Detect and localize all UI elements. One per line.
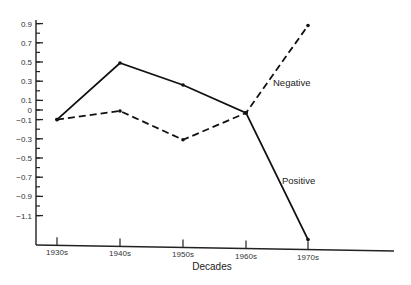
data-point (244, 111, 248, 115)
series-group (55, 24, 310, 242)
y-tick-label: 0.3 (21, 77, 33, 86)
y-tick-label: 0 (28, 106, 33, 115)
y-tick-label: −0.5 (16, 154, 32, 163)
y-tick-label: 0.7 (21, 39, 33, 48)
positive-series-label: Positive (282, 175, 315, 186)
x-axis-line (36, 245, 394, 251)
y-tick-label: 0.9 (21, 20, 33, 29)
x-tick-label: 1940s (109, 249, 131, 258)
data-point (306, 24, 310, 28)
line-chart: 0.90.70.50.30.10−0.1−0.3−0.5−0.7−0.9−1.1… (0, 0, 411, 285)
y-tick-label: −0.7 (16, 173, 32, 182)
x-tick-label: 1970s (297, 253, 319, 262)
data-point (118, 109, 122, 113)
data-point (55, 118, 59, 122)
y-tick-label: −1.1 (16, 212, 32, 221)
x-tick-label: 1930s (46, 248, 68, 257)
x-axis: 1930s1940s1950s1960s1970s (36, 237, 394, 261)
y-axis: 0.90.70.50.30.10−0.1−0.3−0.5−0.7−0.9−1.1 (16, 20, 43, 245)
y-tick-label: −0.3 (16, 135, 32, 144)
data-point (181, 138, 185, 142)
positive-series-line (57, 63, 308, 240)
x-tick-label: 1950s (172, 250, 194, 259)
y-tick-label: 0.1 (21, 96, 33, 105)
negative-series-label: Negative (273, 77, 311, 88)
x-axis-title: Decades (192, 261, 231, 272)
y-tick-label: −0.9 (16, 192, 32, 201)
x-tick-label: 1960s (235, 252, 257, 261)
y-tick-label: 0.5 (21, 58, 33, 67)
y-tick-label: −0.1 (16, 116, 32, 125)
data-point (118, 61, 122, 65)
data-point (181, 83, 185, 87)
data-point (306, 238, 310, 242)
negative-series-line (57, 26, 308, 140)
